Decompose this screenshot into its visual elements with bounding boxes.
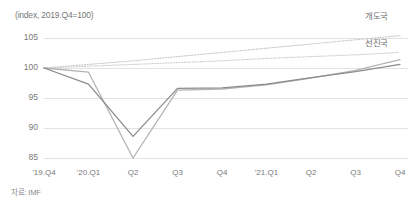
y-axis-tick-label: 100 — [12, 62, 38, 72]
x-axis-tick-label: Q4 — [395, 168, 406, 177]
y-axis-tick-label: 105 — [12, 32, 38, 42]
y-axis-tick-label: 85 — [12, 152, 38, 162]
series-line-3 — [44, 64, 400, 136]
source-note: 자료: IMF — [11, 186, 41, 197]
x-axis-tick-label: Q3 — [172, 168, 183, 177]
series-line-0 — [44, 36, 400, 68]
series-line-2 — [44, 60, 400, 158]
x-axis-tick-label: '21.Q1 — [255, 168, 278, 177]
x-axis-tick-label: '19.Q4 — [32, 168, 55, 177]
series-label-developing: 개도국 — [365, 9, 388, 21]
x-axis-tick-label: Q4 — [217, 168, 228, 177]
chart-container: (index, 2019.Q4=100) 개도국 선진국 자료: IMF 859… — [0, 0, 411, 202]
x-axis-tick-label: Q2 — [306, 168, 317, 177]
y-axis-tick-label: 90 — [12, 122, 38, 132]
series-label-advanced: 선진국 — [365, 36, 388, 48]
x-axis-tick-label: Q3 — [350, 168, 361, 177]
x-axis-tick-label: '20.Q1 — [77, 168, 100, 177]
x-axis-tick-label: Q2 — [128, 168, 139, 177]
series-line-1 — [44, 52, 400, 68]
y-axis-tick-label: 95 — [12, 92, 38, 102]
